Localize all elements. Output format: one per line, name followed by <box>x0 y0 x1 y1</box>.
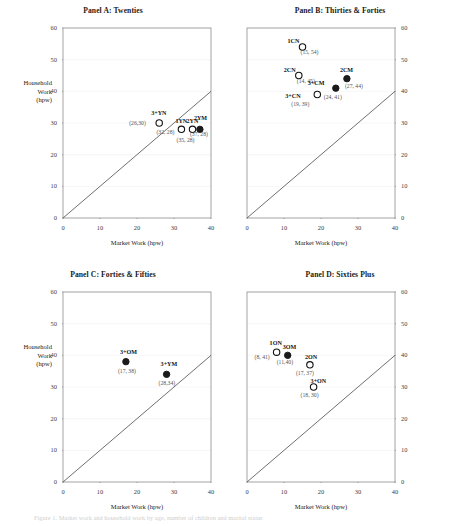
data-point-marker <box>344 75 350 81</box>
y-tick-label: 10 <box>41 182 57 189</box>
y-tick-label: 0 <box>41 214 57 221</box>
data-point-coordinate: (28,34) <box>159 380 176 386</box>
x-tick-label: 40 <box>203 488 219 495</box>
x-axis-title: Market Work (hpw) <box>261 503 381 510</box>
y-tick-label: 40 <box>401 351 417 358</box>
y-tick-label: 50 <box>41 320 57 327</box>
y-tick-label: 0 <box>41 478 57 485</box>
data-point-label: 1YN <box>175 118 187 124</box>
data-point-coordinate: (17, 38) <box>118 368 136 374</box>
figure-caption: Figure 1. Market work and household work… <box>34 514 434 523</box>
data-point-label: 2YM <box>194 115 207 121</box>
panel-title: Panel B: Thirties & Forties <box>227 6 453 15</box>
y-tick-label: 30 <box>401 383 417 390</box>
y-tick-label: 0 <box>401 478 417 485</box>
x-tick-label: 30 <box>166 224 182 231</box>
x-axis-title: Market Work (hpw) <box>77 239 197 246</box>
y-tick-label: 50 <box>401 56 417 63</box>
data-point-coordinate: (17, 37) <box>296 370 314 376</box>
x-tick-label: 0 <box>55 488 71 495</box>
panel-2: Panel B: Thirties & Forties0102030405060… <box>227 0 453 263</box>
plot-area <box>62 291 212 483</box>
data-point-coordinate: (19, 39) <box>291 101 309 107</box>
panel-title: Panel A: Twenties <box>0 6 226 15</box>
data-point-label: 1ON <box>270 340 282 346</box>
data-point-marker <box>314 91 320 97</box>
y-tick-label: 20 <box>401 151 417 158</box>
data-point-label: 3+YM <box>161 361 178 367</box>
y-tick-label: 60 <box>41 288 57 295</box>
y-tick-label: 10 <box>401 446 417 453</box>
y-tick-label: 50 <box>401 320 417 327</box>
data-point-label: 3OM <box>283 344 297 350</box>
x-tick-label: 10 <box>92 488 108 495</box>
y-tick-label: 30 <box>41 119 57 126</box>
x-tick-label: 20 <box>129 488 145 495</box>
x-tick-label: 40 <box>387 224 403 231</box>
x-tick-label: 30 <box>350 488 366 495</box>
data-point-label: 2CN <box>284 67 296 73</box>
data-point-coordinate: (35, 28) <box>177 137 195 143</box>
data-point-label: 2CM <box>340 67 353 73</box>
panel-1: Panel A: Twenties0102030405060010203040M… <box>0 0 226 263</box>
data-point-marker <box>163 371 169 377</box>
x-tick-label: 40 <box>387 488 403 495</box>
x-tick-label: 0 <box>239 224 255 231</box>
x-axis-title: Market Work (hpw) <box>77 503 197 510</box>
data-point-coordinate: (37, 28) <box>190 131 208 137</box>
x-tick-label: 10 <box>276 488 292 495</box>
data-point-coordinate: (15, 54) <box>301 49 319 55</box>
data-point-marker <box>273 349 279 355</box>
data-point-marker <box>307 362 313 368</box>
y-axis-title-line: (hpw) <box>0 360 52 368</box>
x-tick-label: 30 <box>166 488 182 495</box>
y-tick-label: 50 <box>41 56 57 63</box>
x-tick-label: 30 <box>350 224 366 231</box>
data-point-label: 1CN <box>288 38 300 44</box>
x-tick-label: 20 <box>129 224 145 231</box>
data-point-marker <box>310 384 316 390</box>
y-axis-title-line: Work <box>0 88 52 96</box>
y-tick-label: 0 <box>401 214 417 221</box>
panel-title: Panel D: Sixties Plus <box>227 270 453 279</box>
data-point-label: 3+YN <box>151 110 166 116</box>
y-tick-label: 40 <box>401 87 417 94</box>
data-point-label: 3+CN <box>285 93 300 99</box>
y-tick-label: 60 <box>401 24 417 31</box>
y-tick-label: 20 <box>41 151 57 158</box>
panel-title: Panel C: Forties & Fifties <box>0 270 226 279</box>
data-point-marker <box>333 85 339 91</box>
figure-root: Panel A: Twenties0102030405060010203040M… <box>0 0 453 526</box>
data-point-marker <box>156 120 162 126</box>
plot-area <box>246 27 396 219</box>
x-tick-label: 20 <box>313 224 329 231</box>
y-tick-label: 10 <box>41 446 57 453</box>
data-point-coordinate: (8, 41) <box>255 354 270 360</box>
data-point-coordinate: (32, 28) <box>156 129 174 135</box>
y-tick-label: 30 <box>401 119 417 126</box>
y-axis-title-line: (hpw) <box>0 96 52 104</box>
data-point-label: 2ON <box>305 354 317 360</box>
x-tick-label: 10 <box>276 224 292 231</box>
x-tick-label: 40 <box>203 224 219 231</box>
y-axis-title-line: Household <box>0 343 52 351</box>
panel-4: Panel D: Sixties Plus0102030405060010203… <box>227 264 453 526</box>
plot-area <box>246 291 396 483</box>
y-tick-label: 30 <box>41 383 57 390</box>
data-point-marker <box>123 358 129 364</box>
data-point-label: 3+OM <box>120 349 137 355</box>
data-point-label: 3+CM <box>308 80 325 86</box>
panel-3: Panel C: Forties & Fifties01020304050600… <box>0 264 226 526</box>
y-axis-title-line: Work <box>0 352 52 360</box>
data-point-coordinate: (24, 41) <box>324 94 342 100</box>
x-tick-label: 20 <box>313 488 329 495</box>
y-tick-label: 10 <box>401 182 417 189</box>
data-point-coordinate: (26,30) <box>129 120 146 126</box>
x-axis-title: Market Work (hpw) <box>261 239 381 246</box>
x-tick-label: 0 <box>239 488 255 495</box>
x-tick-label: 0 <box>55 224 71 231</box>
y-tick-label: 20 <box>401 415 417 422</box>
y-axis-title-line: Household <box>0 79 52 87</box>
y-tick-label: 60 <box>401 288 417 295</box>
data-point-label: 3+ON <box>311 378 327 384</box>
